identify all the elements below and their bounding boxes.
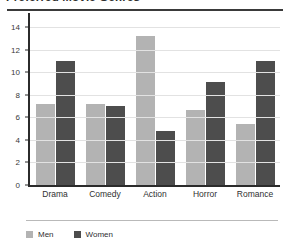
bars-container xyxy=(30,16,280,185)
y-axis-tick-mark xyxy=(25,162,29,163)
y-axis-tick-label: 8 xyxy=(16,90,20,99)
bar-group xyxy=(30,16,80,185)
y-axis-tick-mark xyxy=(25,72,29,73)
y-axis-tick-label: 14 xyxy=(11,23,20,32)
gridline xyxy=(30,27,280,28)
y-axis-tick-mark xyxy=(25,27,29,28)
gridline xyxy=(30,72,280,73)
x-axis-labels: DramaComedyActionHorrorRomance xyxy=(30,189,280,203)
y-axis-tick-mark xyxy=(25,185,29,186)
chart-plot-area: 02468101214 DramaComedyActionHorrorRoman… xyxy=(0,16,290,202)
y-axis-tick-label: 2 xyxy=(16,158,20,167)
bar-drama-men[interactable] xyxy=(36,104,55,185)
y-axis-tick-label: 10 xyxy=(11,68,20,77)
legend-swatch-icon xyxy=(26,231,33,238)
bar-horror-women[interactable] xyxy=(206,82,225,185)
bar-comedy-men[interactable] xyxy=(86,104,105,185)
y-axis-tick-label: 4 xyxy=(16,135,20,144)
gridline xyxy=(30,162,280,163)
bar-group xyxy=(130,16,180,185)
x-axis-label-horror: Horror xyxy=(193,189,217,199)
x-axis-label-romance: Romance xyxy=(237,189,273,199)
gridline xyxy=(30,95,280,96)
legend-divider xyxy=(26,220,278,221)
y-axis-tick-mark xyxy=(25,49,29,50)
gridline xyxy=(30,50,280,51)
bar-group xyxy=(80,16,130,185)
bar-drama-women[interactable] xyxy=(56,61,75,185)
y-axis: 02468101214 xyxy=(0,16,25,186)
legend-label: Men xyxy=(38,230,54,239)
y-axis-tick-mark xyxy=(25,94,29,95)
y-axis-tick-mark xyxy=(25,139,29,140)
bar-horror-men[interactable] xyxy=(186,110,205,185)
legend-swatch-icon xyxy=(74,231,81,238)
bar-romance-women[interactable] xyxy=(256,61,275,185)
bar-group xyxy=(180,16,230,185)
legend-item-women[interactable]: Women xyxy=(74,230,113,239)
gridline xyxy=(30,117,280,118)
bar-romance-men[interactable] xyxy=(236,124,255,185)
y-axis-tick-label: 6 xyxy=(16,113,20,122)
title-divider xyxy=(7,9,283,11)
chart-legend: MenWomen xyxy=(26,230,113,239)
x-axis-label-comedy: Comedy xyxy=(89,189,121,199)
page-title: Preferred Movie Genres xyxy=(6,0,140,3)
legend-item-men[interactable]: Men xyxy=(26,230,54,239)
y-axis-tick-mark xyxy=(25,117,29,118)
y-axis-tick-label: 0 xyxy=(16,181,20,190)
gridline xyxy=(30,140,280,141)
x-axis-label-drama: Drama xyxy=(42,189,68,199)
x-axis-label-action: Action xyxy=(143,189,167,199)
bar-group xyxy=(230,16,280,185)
x-axis-line xyxy=(28,185,280,187)
y-axis-tick-label: 12 xyxy=(11,45,20,54)
legend-label: Women xyxy=(86,230,113,239)
